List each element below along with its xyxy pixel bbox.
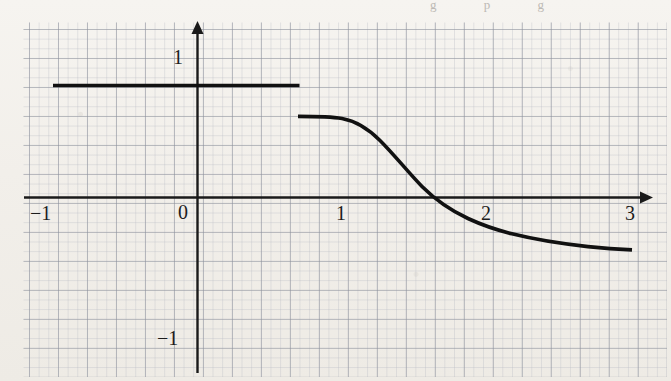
grid-group [22, 22, 668, 378]
major-gridlines [24, 23, 668, 378]
x-tick-label-3: 3 [625, 202, 635, 224]
x-tick-label-neg1: −1 [30, 202, 51, 224]
y-tick-label-1: 1 [173, 46, 183, 68]
figure-canvas: −1 0 1 2 3 1 −1 g p g [0, 0, 671, 381]
x-tick-label-0: 0 [178, 201, 188, 223]
page-top-cutoff-text: g p g [430, 0, 566, 12]
x-tick-label-2: 2 [481, 202, 491, 224]
x-tick-label-1: 1 [336, 202, 346, 224]
y-tick-label-neg1: −1 [157, 327, 178, 349]
graph-svg: −1 0 1 2 3 1 −1 g p g [0, 0, 671, 381]
